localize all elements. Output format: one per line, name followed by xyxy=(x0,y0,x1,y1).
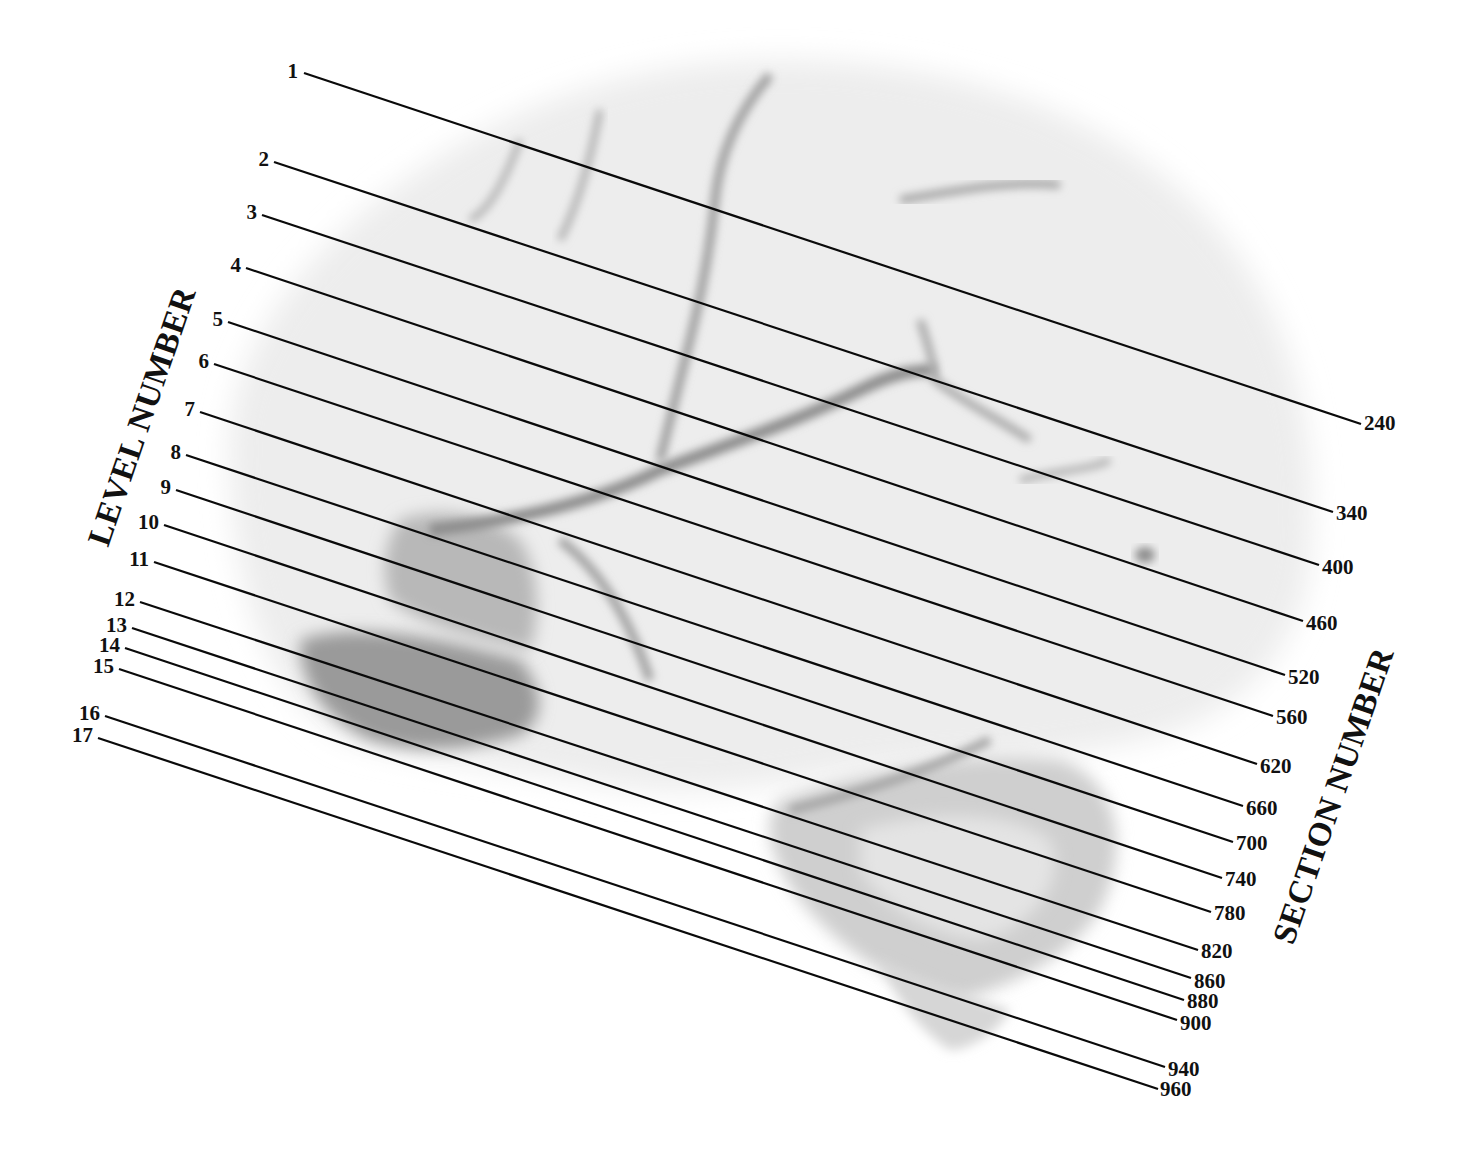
section-label-960: 960 xyxy=(1160,1077,1192,1101)
brain-section-level-diagram: 1 2 3 4 5 6 7 8 9 10 11 12 13 14 15 16 1… xyxy=(0,0,1477,1158)
level-label-12: 12 xyxy=(114,587,135,611)
vessel-spot xyxy=(1135,547,1155,563)
level-label-7: 7 xyxy=(185,397,196,421)
level-label-5: 5 xyxy=(213,307,224,331)
level-label-1: 1 xyxy=(288,59,299,83)
section-label-660: 660 xyxy=(1246,796,1278,820)
level-label-10: 10 xyxy=(138,510,159,534)
level-label-9: 9 xyxy=(161,475,172,499)
section-label-400: 400 xyxy=(1322,555,1354,579)
section-label-900: 900 xyxy=(1180,1011,1212,1035)
section-label-700: 700 xyxy=(1236,831,1268,855)
brain-lateral-view-image xyxy=(229,60,1312,1050)
level-label-6: 6 xyxy=(199,349,210,373)
level-label-16: 16 xyxy=(79,701,100,725)
level-label-17: 17 xyxy=(72,723,93,747)
section-label-240: 240 xyxy=(1364,411,1396,435)
level-label-8: 8 xyxy=(171,440,182,464)
level-label-15: 15 xyxy=(93,654,114,678)
section-number-axis-title: SECTION NUMBER xyxy=(1266,642,1401,948)
section-label-460: 460 xyxy=(1306,611,1338,635)
section-label-560: 560 xyxy=(1276,705,1308,729)
level-label-2: 2 xyxy=(259,147,270,171)
level-label-4: 4 xyxy=(231,253,242,277)
section-label-340: 340 xyxy=(1336,501,1368,525)
level-label-11: 11 xyxy=(129,547,149,571)
section-label-820: 820 xyxy=(1201,939,1233,963)
section-label-620: 620 xyxy=(1260,754,1292,778)
level-label-3: 3 xyxy=(247,200,258,224)
section-label-520: 520 xyxy=(1288,665,1320,689)
section-label-740: 740 xyxy=(1225,867,1257,891)
section-label-880: 880 xyxy=(1187,989,1219,1013)
section-label-780: 780 xyxy=(1214,901,1246,925)
